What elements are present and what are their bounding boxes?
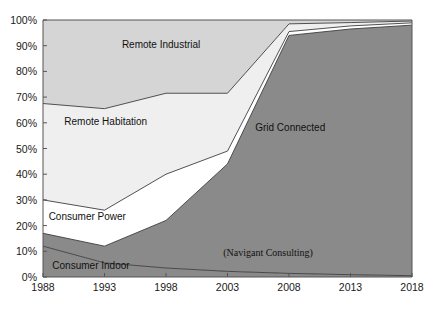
y-tick-label: 60% (16, 117, 37, 129)
x-tick-label: 2013 (339, 281, 363, 293)
x-tick-label: 1988 (31, 281, 55, 293)
y-tick-label: 100% (10, 14, 37, 26)
series-annotation-remote-habitation: Remote Habitation (64, 116, 147, 127)
chart-container: 0%10%20%30%40%50%60%70%80%90%100%1988199… (0, 0, 433, 314)
stacked-area-chart: 0%10%20%30%40%50%60%70%80%90%100%1988199… (0, 0, 433, 314)
y-tick-label: 70% (16, 91, 37, 103)
series-annotation-consumer-indoor: Consumer Indoor (52, 260, 130, 271)
y-tick-label: 30% (16, 194, 37, 206)
x-tick-label: 2018 (400, 281, 424, 293)
source-annotation: (Navigant Consulting) (223, 247, 313, 259)
series-annotation-remote-industrial: Remote Industrial (122, 39, 200, 50)
y-tick-label: 20% (16, 220, 37, 232)
y-tick-label: 40% (16, 168, 37, 180)
y-tick-label: 80% (16, 65, 37, 77)
x-tick-label: 2008 (277, 281, 301, 293)
y-tick-label: 50% (16, 143, 37, 155)
x-tick-label: 2003 (216, 281, 240, 293)
y-tick-label: 10% (16, 245, 37, 257)
x-tick-label: 1998 (154, 281, 178, 293)
y-tick-label: 90% (16, 40, 37, 52)
x-tick-label: 1993 (93, 281, 117, 293)
series-annotation-grid-connected: Grid Connected (255, 122, 325, 133)
series-annotation-consumer-power: Consumer Power (49, 211, 127, 222)
